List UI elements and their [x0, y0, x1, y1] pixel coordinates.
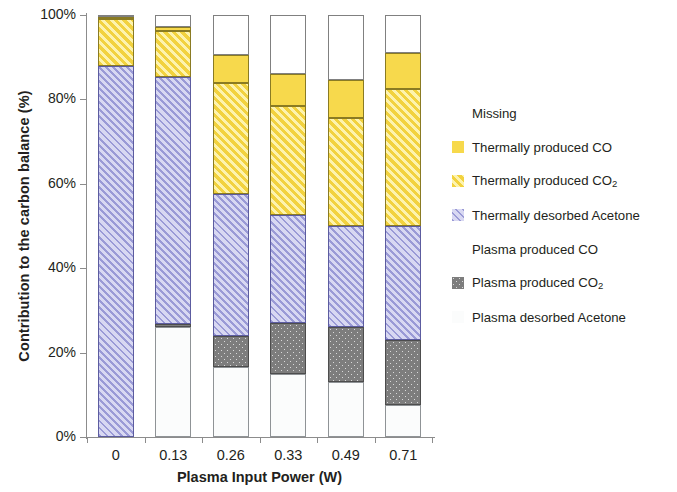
y-tick-label: 0%	[32, 428, 76, 444]
bar-segment-plasma-produced-co2[interactable]	[328, 327, 364, 382]
bar-segment-thermally-produced-co[interactable]	[98, 17, 134, 19]
chart-legend: MissingThermally produced COThermally pr…	[452, 96, 674, 334]
stacked-bar[interactable]	[328, 15, 364, 437]
x-tick	[432, 437, 433, 443]
y-tick	[80, 268, 86, 269]
bar-segment-missing[interactable]	[328, 15, 364, 80]
bar-segment-thermally-produced-co2[interactable]	[328, 118, 364, 226]
legend-label: Missing	[472, 106, 517, 121]
x-tick-label: 0.26	[201, 447, 261, 463]
legend-swatch-icon	[452, 107, 464, 119]
x-axis-line	[86, 437, 435, 438]
y-axis-title: Contribution to the carbon balance (%)	[16, 16, 32, 436]
x-tick-label: 0.13	[143, 447, 203, 463]
bar-segment-missing[interactable]	[385, 15, 421, 53]
y-tick-label: 80%	[32, 90, 76, 106]
y-tick	[80, 99, 86, 100]
x-tick-label: 0.33	[258, 447, 318, 463]
legend-swatch-icon	[452, 243, 464, 255]
bar-segment-thermally-desorbed-acetone[interactable]	[98, 66, 134, 437]
y-tick	[80, 184, 86, 185]
bar-segment-missing[interactable]	[213, 15, 249, 55]
stacked-bar[interactable]	[385, 15, 421, 437]
bar-segment-missing[interactable]	[270, 15, 306, 74]
bar-segment-thermally-produced-co2[interactable]	[213, 83, 249, 195]
bar-segment-thermally-desorbed-acetone[interactable]	[155, 77, 191, 324]
legend-label: Plasma produced CO	[472, 242, 598, 257]
y-tick-label: 100%	[32, 6, 76, 22]
bar-segment-thermally-desorbed-acetone[interactable]	[213, 194, 249, 335]
bar-segment-thermally-produced-co2[interactable]	[270, 106, 306, 216]
stacked-bar[interactable]	[155, 15, 191, 437]
legend-item[interactable]: Plasma produced CO	[452, 232, 674, 266]
legend-item[interactable]: Thermally produced CO2	[452, 164, 674, 198]
y-tick	[80, 353, 86, 354]
y-tick	[80, 437, 86, 438]
legend-label: Thermally desorbed Acetone	[472, 208, 640, 223]
bar-segment-plasma-produced-co2[interactable]	[385, 340, 421, 405]
bar-segment-plasma-desorbed-acetone[interactable]	[385, 405, 421, 437]
plot-area	[87, 15, 432, 437]
x-tick	[145, 437, 146, 443]
legend-label: Plasma produced CO2	[472, 275, 603, 291]
bar-segment-plasma-produced-co2[interactable]	[213, 336, 249, 368]
legend-item[interactable]: Thermally desorbed Acetone	[452, 198, 674, 232]
y-tick-label: 20%	[32, 344, 76, 360]
y-tick-label: 60%	[32, 175, 76, 191]
bar-segment-thermally-desorbed-acetone[interactable]	[270, 215, 306, 323]
bar-segment-thermally-produced-co2[interactable]	[98, 19, 134, 65]
x-axis-title: Plasma Input Power (W)	[87, 469, 432, 485]
legend-label: Plasma desorbed Acetone	[472, 310, 626, 325]
bar-segment-thermally-produced-co2[interactable]	[155, 31, 191, 77]
bar-segment-plasma-desorbed-acetone[interactable]	[328, 382, 364, 437]
bar-segment-thermally-produced-co[interactable]	[155, 27, 191, 30]
x-tick-label: 0.49	[316, 447, 376, 463]
legend-item[interactable]: Plasma produced CO2	[452, 266, 674, 300]
stacked-bar[interactable]	[98, 15, 134, 437]
legend-label: Thermally produced CO2	[472, 173, 617, 189]
legend-swatch-icon	[452, 209, 464, 221]
bar-segment-thermally-produced-co[interactable]	[213, 55, 249, 82]
x-tick	[375, 437, 376, 443]
x-tick	[317, 437, 318, 443]
legend-label: Thermally produced CO	[472, 140, 612, 155]
legend-item[interactable]: Missing	[452, 96, 674, 130]
x-tick	[87, 437, 88, 443]
legend-item[interactable]: Plasma desorbed Acetone	[452, 300, 674, 334]
stacked-bar[interactable]	[213, 15, 249, 437]
bar-segment-missing[interactable]	[98, 15, 134, 17]
legend-swatch-icon	[452, 175, 464, 187]
legend-swatch-icon	[452, 311, 464, 323]
x-tick-label: 0.71	[373, 447, 433, 463]
legend-swatch-icon	[452, 141, 464, 153]
bar-segment-plasma-produced-co2[interactable]	[155, 324, 191, 327]
legend-swatch-icon	[452, 277, 464, 289]
bar-segment-thermally-desorbed-acetone[interactable]	[385, 226, 421, 340]
x-tick	[202, 437, 203, 443]
chart-figure: Contribution to the carbon balance (%) 0…	[0, 0, 677, 492]
bar-segment-thermally-produced-co[interactable]	[328, 80, 364, 118]
bar-segment-thermally-produced-co[interactable]	[385, 53, 421, 89]
bar-segment-plasma-desorbed-acetone[interactable]	[213, 367, 249, 437]
y-tick-label: 40%	[32, 259, 76, 275]
legend-item[interactable]: Thermally produced CO	[452, 130, 674, 164]
bar-segment-plasma-desorbed-acetone[interactable]	[155, 327, 191, 437]
bar-segment-thermally-produced-co[interactable]	[270, 74, 306, 106]
x-tick	[260, 437, 261, 443]
bar-segment-missing[interactable]	[155, 15, 191, 28]
stacked-bar[interactable]	[270, 15, 306, 437]
bar-segment-plasma-produced-co2[interactable]	[270, 323, 306, 374]
y-tick	[80, 15, 86, 16]
x-tick-label: 0	[86, 447, 146, 463]
bar-segment-thermally-desorbed-acetone[interactable]	[328, 226, 364, 327]
bar-segment-thermally-produced-co2[interactable]	[385, 89, 421, 226]
bar-segment-plasma-desorbed-acetone[interactable]	[270, 374, 306, 437]
